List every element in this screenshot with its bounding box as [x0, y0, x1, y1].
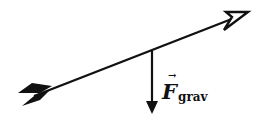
gravity-force-vector: [146, 51, 158, 114]
diagram-canvas: → F grav: [0, 0, 259, 120]
arrow-shaft: [34, 15, 242, 96]
force-label-main: F: [161, 79, 179, 104]
force-label: → F grav: [161, 70, 208, 104]
force-label-sub: grav: [178, 90, 208, 104]
arrow-projectile: [18, 12, 248, 106]
force-arrowhead-icon: [146, 101, 158, 114]
